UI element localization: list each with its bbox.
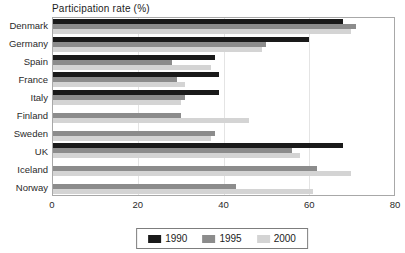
legend: 199019952000 — [136, 228, 308, 249]
bar-2000-spain — [53, 65, 211, 70]
category-label-iceland: Iceland — [0, 160, 48, 178]
bar-group-denmark — [53, 18, 394, 36]
legend-label-1990: 1990 — [165, 233, 187, 244]
category-label-norway: Norway — [0, 178, 48, 196]
category-label-germany: Germany — [0, 35, 48, 53]
bar-group-uk — [53, 142, 394, 160]
x-tick-label-40: 40 — [218, 199, 229, 210]
bar-group-germany — [53, 36, 394, 54]
bar-2000-germany — [53, 47, 262, 52]
legend-swatch-2000 — [257, 235, 270, 243]
legend-swatch-1995 — [202, 235, 215, 243]
y-axis-labels: DenmarkGermanySpainFranceItalyFinlandSwe… — [0, 17, 48, 196]
chart-title: Participation rate (%) — [52, 3, 150, 14]
bar-2000-sweden — [53, 136, 211, 141]
category-label-spain: Spain — [0, 53, 48, 71]
legend-item-1990: 1990 — [148, 233, 187, 244]
legend-label-2000: 2000 — [274, 233, 296, 244]
bar-group-spain — [53, 53, 394, 71]
bar-2000-uk — [53, 153, 300, 158]
x-tick-label-60: 60 — [304, 199, 315, 210]
bar-2000-norway — [53, 189, 313, 194]
legend-label-1995: 1995 — [219, 233, 241, 244]
legend-item-2000: 2000 — [257, 233, 296, 244]
category-label-italy: Italy — [0, 89, 48, 107]
category-label-denmark: Denmark — [0, 17, 48, 35]
x-axis-labels: 020406080 — [0, 199, 405, 211]
bar-2000-iceland — [53, 171, 351, 176]
bar-2000-denmark — [53, 29, 351, 34]
bar-group-norway — [53, 177, 394, 195]
legend-swatch-1990 — [148, 235, 161, 243]
bar-group-france — [53, 71, 394, 89]
bar-2000-italy — [53, 100, 181, 105]
category-label-finland: Finland — [0, 107, 48, 125]
x-tick-label-80: 80 — [390, 199, 401, 210]
legend-item-1995: 1995 — [202, 233, 241, 244]
category-label-france: France — [0, 71, 48, 89]
x-tick-label-0: 0 — [49, 199, 54, 210]
bar-group-iceland — [53, 160, 394, 178]
plot-area — [52, 17, 395, 196]
chart-container: Participation rate (%) DenmarkGermanySpa… — [0, 0, 405, 253]
bar-group-sweden — [53, 124, 394, 142]
bar-2000-france — [53, 82, 185, 87]
category-label-uk: UK — [0, 142, 48, 160]
category-label-sweden: Sweden — [0, 124, 48, 142]
bar-group-italy — [53, 89, 394, 107]
bar-rows — [53, 18, 394, 195]
bar-group-finland — [53, 107, 394, 125]
bar-2000-finland — [53, 118, 249, 123]
x-tick-label-20: 20 — [132, 199, 143, 210]
